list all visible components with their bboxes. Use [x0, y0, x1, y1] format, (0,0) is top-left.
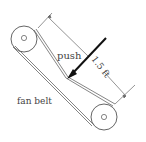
diagram-svg: push 1.5 ft fan belt — [0, 0, 146, 142]
push-label: push — [57, 50, 82, 61]
top-pulley — [11, 26, 37, 52]
fan-belt-diagram: push 1.5 ft fan belt — [0, 0, 146, 142]
fan-belt-label: fan belt — [17, 96, 52, 106]
dimension-label: 1.5 ft — [89, 54, 112, 79]
bottom-pulley — [91, 104, 117, 130]
